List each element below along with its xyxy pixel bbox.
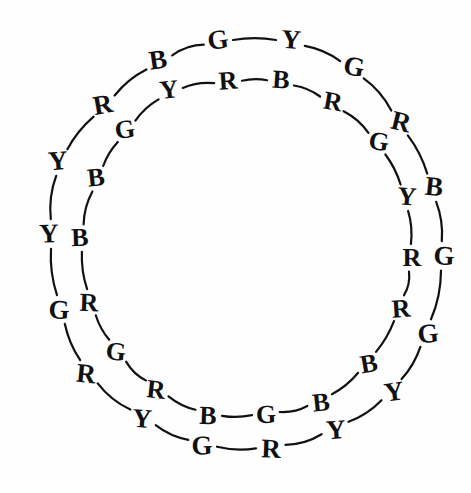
letter-ring-figure: GYGRBGGYYRGYRGYYRB RBRGYRRBBGBRGRBBGY	[0, 0, 471, 493]
inner-ring-letter: G	[367, 128, 391, 157]
outer-ring-letter: G	[433, 242, 455, 270]
outer-ring-arc	[65, 324, 80, 360]
outer-ring-arc	[51, 249, 57, 295]
inner-ring-arc	[169, 396, 196, 409]
outer-ring-letter: Y	[131, 405, 152, 433]
inner-ring-arc	[408, 211, 411, 244]
inner-ring-arc	[385, 155, 400, 185]
inner-ring-arc	[344, 111, 369, 133]
inner-ring-letter: R	[145, 376, 166, 404]
inner-ring-letter: B	[71, 225, 89, 252]
outer-ring-arc	[98, 383, 131, 409]
outer-ring-letter: Y	[39, 220, 59, 248]
inner-ring-arc	[242, 79, 267, 81]
outer-ring-letter: R	[75, 360, 97, 389]
inner-ring-letter: G	[113, 116, 137, 145]
outer-ring-letter: G	[191, 432, 213, 460]
outer-ring-arc	[172, 45, 204, 56]
outer-ring-arc	[50, 176, 56, 219]
outer-ring-letter: Y	[47, 147, 68, 175]
inner-ring-arc	[84, 192, 93, 225]
inner-ring-letter: Y	[397, 183, 418, 210]
inner-ring-arc	[294, 86, 320, 97]
outer-ring-letter: Y	[280, 26, 301, 54]
outer-ring-letter: G	[416, 319, 440, 348]
outer-ring-arc	[217, 447, 256, 450]
inner-ring-arc	[376, 321, 394, 352]
inner-ring-arc	[82, 252, 87, 289]
inner-ring-letter: R	[79, 290, 99, 317]
outer-ring-arc	[364, 78, 392, 110]
inner-ring-letter: B	[199, 403, 217, 430]
inner-ring-letter: R	[218, 67, 239, 94]
inner-ring-letter: B	[311, 389, 331, 417]
outer-ring-arc	[436, 202, 442, 241]
inner-ring-arc	[280, 406, 308, 412]
inner-ring-arc	[332, 373, 358, 394]
inner-ring-arc	[222, 415, 252, 417]
outer-ring-arc	[233, 38, 276, 40]
inner-ring-arc	[103, 142, 118, 166]
inner-ring-letter: B	[271, 66, 290, 93]
inner-ring-letter: B	[86, 164, 106, 192]
outer-ring-arc	[115, 70, 147, 96]
outer-ring-letter: B	[424, 173, 445, 202]
outer-ring-letter: R	[261, 435, 281, 463]
outer-ring-letter: Y	[325, 416, 346, 444]
inner-ring-arc	[404, 272, 409, 296]
inner-ring-letter: G	[255, 402, 276, 429]
outer-ring-arc	[408, 135, 427, 173]
inner-ring-letter: R	[403, 245, 422, 271]
inner-ring-letter: R	[391, 295, 412, 322]
outer-ring-arc	[349, 400, 382, 422]
inner-ring-letter: Y	[158, 76, 179, 104]
outer-ring-arc	[67, 117, 93, 150]
outer-ring-letter: G	[48, 296, 70, 324]
outer-ring-arc	[285, 434, 321, 445]
inner-ring-letter: G	[105, 338, 128, 366]
outer-ring-letter: G	[206, 25, 231, 55]
outer-ring-arc	[305, 46, 340, 61]
inner-ring-arc	[135, 99, 158, 120]
inner-ring-arc	[126, 362, 146, 381]
outer-ring-letter: B	[147, 45, 169, 74]
outer-ring-arc	[402, 347, 421, 379]
inner-ring-arc	[183, 83, 214, 88]
outer-ring-letter: Y	[382, 377, 405, 406]
outer-ring-letter: R	[91, 90, 115, 120]
outer-ring-arc	[156, 425, 189, 440]
outer-ring-arc	[431, 271, 441, 320]
